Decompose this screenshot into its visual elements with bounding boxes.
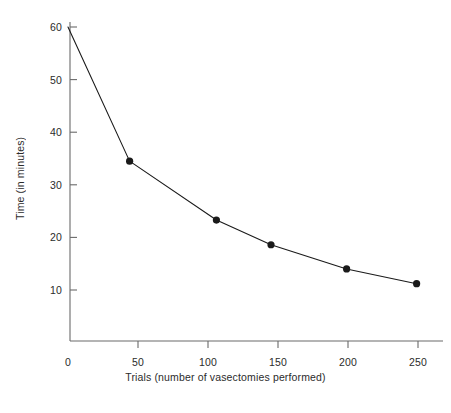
y-tick-label: 30 (34, 179, 62, 191)
data-point-marker (213, 216, 220, 223)
y-axis-title: Time (in minutes) (14, 98, 34, 258)
data-point-marker (413, 280, 420, 287)
x-axis-title: Trials (number of vasectomies performed) (0, 371, 451, 383)
x-tick-label: 200 (339, 356, 357, 368)
data-point-marker (267, 241, 274, 248)
y-axis-ticks (70, 27, 77, 290)
x-tick-label: 0 (65, 356, 71, 368)
y-tick-label: 10 (34, 284, 62, 296)
data-point-marker (126, 158, 133, 165)
y-tick-label: 60 (34, 21, 62, 33)
chart-figure: 102030405060 050100150200250 Time (in mi… (0, 0, 451, 413)
data-point-marker (343, 265, 350, 272)
y-tick-label: 40 (34, 126, 62, 138)
data-line (68, 27, 417, 284)
x-tick-label: 150 (269, 356, 287, 368)
data-point-markers (126, 158, 420, 288)
y-tick-label: 20 (34, 231, 62, 243)
x-tick-label: 100 (199, 356, 217, 368)
x-tick-label: 250 (409, 356, 427, 368)
x-axis-ticks (138, 341, 418, 348)
axes (70, 22, 443, 341)
x-tick-label: 50 (132, 356, 144, 368)
y-tick-label: 50 (34, 74, 62, 86)
line-chart-plot (0, 0, 451, 413)
